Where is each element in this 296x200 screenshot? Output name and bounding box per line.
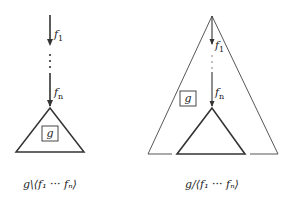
arrowhead-icon (47, 39, 53, 46)
right-caption: g/⟨f₁ ··· fₙ⟩ (185, 178, 239, 191)
arrowhead-icon (210, 101, 215, 107)
outer-triangle-left-side (148, 16, 212, 154)
left-caption: g\⟨f₁ ··· fₙ⟩ (23, 178, 77, 191)
edge-label-f1: f1 (53, 28, 63, 43)
outer-triangle-right-side (212, 16, 278, 154)
g-box-label: g (184, 92, 191, 105)
diagram-canvas: f1 fn g g\⟨f₁ ··· fₙ⟩ f1 fn (0, 0, 296, 200)
edge-label-f1: f1 (214, 39, 224, 54)
inner-subtree-triangle (177, 108, 245, 154)
ellipsis-dots (49, 54, 51, 68)
left-diagram: f1 fn g g\⟨f₁ ··· fₙ⟩ (16, 15, 84, 191)
g-box-label: g (46, 127, 53, 140)
ellipsis-dots (211, 55, 212, 68)
arrowhead-icon (210, 39, 215, 45)
edge-label-fn: fn (214, 86, 224, 101)
arrowhead-icon (47, 100, 53, 107)
right-diagram: f1 fn g g/⟨f₁ ··· fₙ⟩ (148, 16, 278, 191)
edge-label-fn: fn (53, 86, 63, 101)
